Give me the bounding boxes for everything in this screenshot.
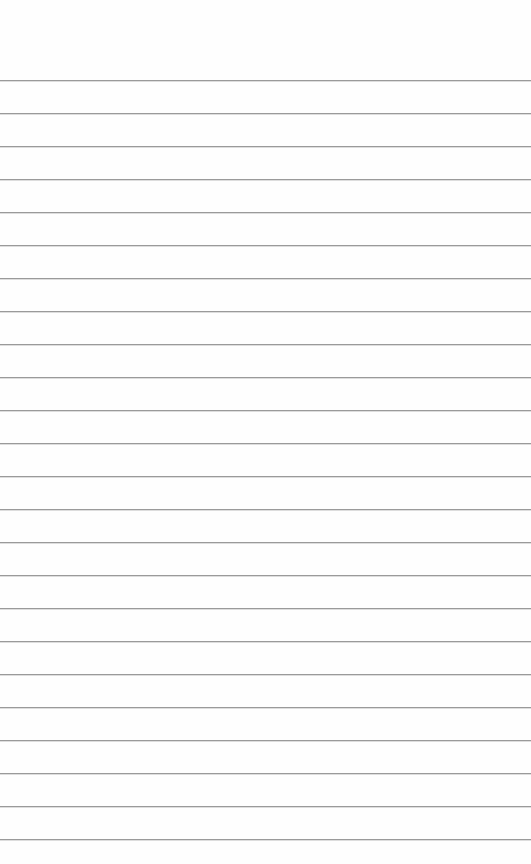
ruled-line: [0, 212, 531, 213]
ruled-line: [0, 311, 531, 312]
ruled-line: [0, 839, 531, 840]
ruled-line: [0, 278, 531, 279]
ruled-line: [0, 410, 531, 411]
ruled-line: [0, 146, 531, 147]
ruled-line: [0, 806, 531, 807]
lined-paper-page: [0, 0, 531, 864]
ruled-line: [0, 608, 531, 609]
ruled-line: [0, 509, 531, 510]
ruled-line: [0, 377, 531, 378]
ruled-line: [0, 476, 531, 477]
ruled-line: [0, 641, 531, 642]
ruled-line: [0, 245, 531, 246]
ruled-line: [0, 179, 531, 180]
ruled-line: [0, 575, 531, 576]
ruled-line: [0, 344, 531, 345]
ruled-line: [0, 443, 531, 444]
ruled-line: [0, 707, 531, 708]
ruled-line: [0, 674, 531, 675]
ruled-line: [0, 113, 531, 114]
ruled-line: [0, 773, 531, 774]
ruled-line: [0, 740, 531, 741]
ruled-line: [0, 542, 531, 543]
ruled-line: [0, 80, 531, 81]
